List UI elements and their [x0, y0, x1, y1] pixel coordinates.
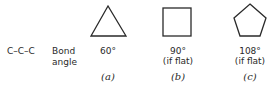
triangle-angle: 60°	[100, 46, 116, 56]
square-note: (if flat)	[163, 56, 193, 66]
pentagon-icon	[234, 4, 266, 36]
ring-shapes	[0, 0, 274, 87]
pentagon-label: (c)	[243, 71, 256, 82]
pentagon-note: (if flat)	[235, 56, 265, 66]
molecule-label: C–C–C	[7, 46, 35, 56]
square-label: (b)	[171, 71, 185, 82]
square-angle: 90°	[170, 46, 186, 56]
square-icon	[163, 8, 191, 36]
triangle-icon	[91, 6, 126, 36]
caption-bond: Bond	[52, 46, 75, 56]
triangle-label: (a)	[101, 71, 115, 82]
pentagon-angle: 108°	[239, 46, 261, 56]
caption-angle: angle	[52, 57, 77, 67]
